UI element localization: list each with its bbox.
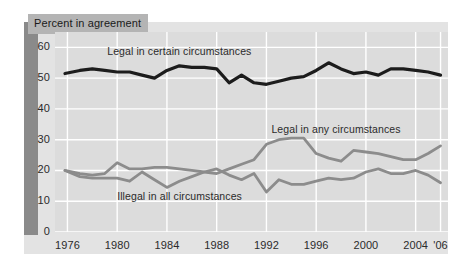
y-axis-tick: 10 [26,194,50,206]
series-line [65,63,441,85]
x-axis-tick: 2000 [346,239,386,251]
series-line [65,169,441,192]
chart-figure: Percent in agreement 0102030405060 19761… [0,0,474,273]
x-axis-tick: 1980 [97,239,137,251]
y-axis-tick: 0 [26,225,50,237]
y-axis-tick: 60 [26,40,50,52]
x-axis-tick: 1996 [296,239,336,251]
chart-title: Percent in agreement [28,14,148,34]
x-axis-tick: 1976 [47,239,87,251]
y-axis-tick: 20 [26,163,50,175]
series-line [65,138,441,175]
series-annotation: Legal in certain circumstances [107,45,251,57]
x-axis-tick: 1984 [147,239,187,251]
series-annotation: Legal in any circumstances [271,123,400,135]
series-annotation: Illegal in all circumstances [117,190,242,202]
x-axis-tick: '06 [421,239,461,251]
y-axis-tick: 40 [26,102,50,114]
y-axis-tick: 30 [26,133,50,145]
x-axis-tick: 1992 [246,239,286,251]
y-axis-tick: 50 [26,71,50,83]
x-axis-tick: 1988 [197,239,237,251]
